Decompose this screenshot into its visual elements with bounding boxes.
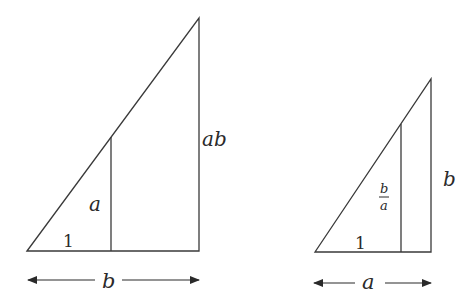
right-label-fraction-numerator: b (380, 181, 388, 196)
left-label-base-1: 1 (63, 231, 74, 251)
left-label-inner-a: a (89, 192, 101, 216)
right-triangle: 1 b a b a (314, 79, 456, 294)
right-label-fraction-denominator: a (380, 198, 388, 213)
left-label-width-b: b (102, 269, 115, 293)
right-label-width-a: a (362, 270, 375, 294)
left-triangle: 1 a ab b (27, 18, 227, 293)
left-label-outer-ab: ab (202, 127, 227, 151)
similar-triangles-diagram: 1 a ab b 1 b a b a (0, 0, 475, 302)
right-label-base-1: 1 (355, 233, 366, 253)
right-label-outer-b: b (443, 167, 456, 191)
right-outer-triangle (315, 79, 431, 252)
left-outer-triangle (27, 18, 199, 251)
